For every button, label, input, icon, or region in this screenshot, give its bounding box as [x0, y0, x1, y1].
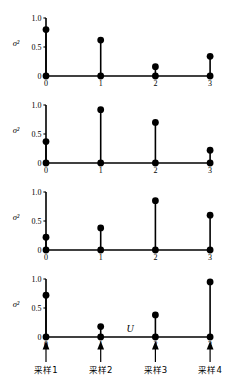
y-axis-label-1: σ² [13, 38, 20, 48]
x-tick-label-2-3: 3 [208, 166, 212, 175]
stem-top-dot-4-3 [207, 279, 214, 286]
sampling-annotation-2: 采样2 [89, 341, 112, 375]
x-tick-label-3-0: 0 [44, 253, 48, 262]
sampling-annotation-group: 采样1采样2采样3采样4 [34, 341, 222, 375]
stem-top-dot-1-1 [97, 37, 104, 44]
stem-top-dot-1-3 [207, 53, 214, 60]
y-tick-label-2-1: 0.5 [32, 130, 42, 139]
stem-top-dot-3-1 [97, 225, 104, 232]
stem-top-dot-3-3 [207, 212, 214, 219]
x-tick-label-1-3: 3 [208, 79, 212, 88]
y-tick-label-3-0: 1.0 [32, 188, 42, 197]
x-tick-label-1-0: 0 [44, 79, 48, 88]
x-tick-label-2-2: 2 [153, 166, 157, 175]
sampling-annotation-1: 采样1 [34, 341, 57, 375]
x-tick-label-1-2: 2 [153, 79, 157, 88]
x-axis-label: U [126, 323, 134, 334]
y-axis-label-2: σ² [13, 125, 20, 135]
x-tick-label-1-1: 1 [99, 79, 103, 88]
stem-top-dot-4-1 [97, 323, 104, 330]
panel-3: 1.00.50σ²0123 [13, 188, 214, 262]
stem-top-dot-2-2 [152, 119, 159, 126]
sampling-annotation-4: 采样4 [198, 341, 221, 375]
x-tick-label-2-1: 1 [99, 166, 103, 175]
stem-top-dot-3-0 [43, 234, 50, 241]
y-tick-label-4-1: 0.5 [32, 304, 42, 313]
stem-top-dot-2-1 [97, 106, 104, 113]
x-tick-label-3-3: 3 [208, 253, 212, 262]
y-tick-label-1-0: 1.0 [32, 14, 42, 23]
sampling-label-3: 采样3 [144, 365, 167, 375]
y-axis-label-3: σ² [13, 212, 20, 222]
stem-top-dot-1-2 [152, 63, 159, 70]
y-tick-label-3-1: 0.5 [32, 217, 42, 226]
y-tick-label-4-0: 1.0 [32, 275, 42, 284]
y-tick-label-1-2: 0 [38, 72, 42, 81]
panel-group: 1.00.50σ²01231.00.50σ²01231.00.50σ²01231… [13, 14, 214, 349]
stem-top-dot-4-0 [43, 292, 50, 299]
sampling-annotation-3: 采样3 [144, 341, 167, 375]
sampling-label-1: 采样1 [34, 365, 57, 375]
figure-canvas: 1.00.50σ²01231.00.50σ²01231.00.50σ²01231… [0, 0, 241, 389]
panel-2: 1.00.50σ²0123 [13, 101, 214, 175]
panel-1: 1.00.50σ²0123 [13, 14, 214, 88]
stem-top-dot-4-2 [152, 312, 159, 319]
y-tick-label-2-2: 0 [38, 159, 42, 168]
x-axis-label-group: U [126, 323, 134, 334]
stem-top-dot-1-0 [43, 26, 50, 33]
panel-4: 1.00.50σ²0123 [13, 275, 214, 349]
y-tick-label-3-2: 0 [38, 246, 42, 255]
y-tick-label-2-0: 1.0 [32, 101, 42, 110]
y-tick-label-1-1: 0.5 [32, 43, 42, 52]
x-tick-label-3-1: 1 [99, 253, 103, 262]
sampling-label-4: 采样4 [198, 365, 221, 375]
stem-plot-figure: 1.00.50σ²01231.00.50σ²01231.00.50σ²01231… [0, 0, 241, 389]
sampling-label-2: 采样2 [89, 365, 112, 375]
y-tick-label-4-2: 0 [38, 333, 42, 342]
stem-top-dot-2-3 [207, 147, 214, 154]
x-tick-label-3-2: 2 [153, 253, 157, 262]
stem-top-dot-3-2 [152, 197, 159, 204]
stem-top-dot-2-0 [43, 138, 50, 145]
x-tick-label-2-0: 0 [44, 166, 48, 175]
y-axis-label-4: σ² [13, 299, 20, 309]
